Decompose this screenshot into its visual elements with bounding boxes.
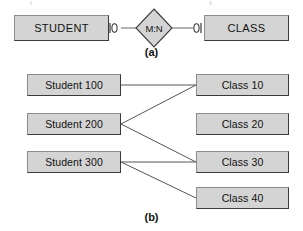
panel-b-caption: (b) bbox=[0, 211, 303, 223]
student-100-box[interactable]: Student 100 bbox=[27, 74, 121, 96]
class-20-box[interactable]: Class 20 bbox=[196, 113, 289, 135]
class-40-box[interactable]: Class 40 bbox=[196, 187, 289, 209]
student-entity[interactable]: STUDENT bbox=[14, 15, 109, 41]
m-n-relationship-label: M:N bbox=[136, 9, 172, 47]
class-40-label: Class 40 bbox=[222, 193, 264, 204]
top-crop-artifact-left bbox=[30, 1, 32, 5]
class-30-label: Class 30 bbox=[222, 157, 264, 168]
class-30-box[interactable]: Class 30 bbox=[196, 151, 289, 173]
student-100-label: Student 100 bbox=[45, 80, 103, 91]
class-10-box[interactable]: Class 10 bbox=[196, 74, 289, 96]
class-10-label: Class 10 bbox=[222, 80, 264, 91]
student-entity-label: STUDENT bbox=[34, 23, 89, 34]
student-200-box[interactable]: Student 200 bbox=[27, 113, 121, 135]
class-entity-label: CLASS bbox=[227, 23, 265, 34]
top-crop-artifact-right bbox=[209, 1, 212, 5]
student-200-label: Student 200 bbox=[45, 119, 103, 130]
student-300-label: Student 300 bbox=[45, 157, 103, 168]
panel-a-caption: (a) bbox=[0, 46, 303, 58]
class-20-label: Class 20 bbox=[222, 119, 264, 130]
er-diagram-figure: STUDENT M:N CLASS (a) Student 100 Studen… bbox=[0, 0, 303, 231]
student-300-box[interactable]: Student 300 bbox=[27, 151, 121, 173]
class-entity[interactable]: CLASS bbox=[204, 15, 289, 41]
m-n-relationship-diamond[interactable]: M:N bbox=[136, 9, 172, 47]
